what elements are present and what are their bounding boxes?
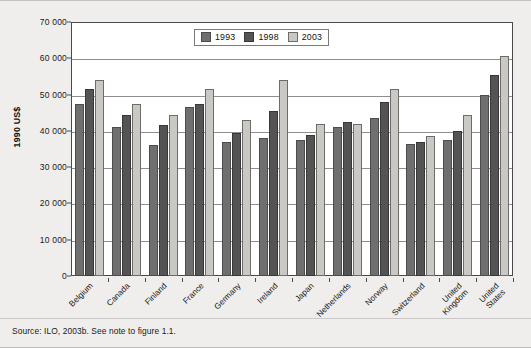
bar — [112, 127, 121, 276]
bar — [306, 135, 315, 277]
source-note: Source: ILO, 2003b. See note to figure 1… — [12, 326, 176, 336]
bars-layer — [71, 22, 513, 276]
legend-item[interactable]: 1993 — [201, 32, 235, 42]
bar — [453, 131, 462, 276]
bar — [232, 133, 241, 276]
bar — [169, 115, 178, 276]
figure-container: 1990 US$ 70 00060 00050 00040 00030 0002… — [0, 0, 531, 348]
legend-swatch-icon — [244, 32, 254, 42]
x-axis-tick-mark — [513, 278, 514, 282]
x-axis-tick-mark — [108, 278, 109, 282]
x-axis-tick-mark — [292, 278, 293, 282]
bar — [75, 104, 84, 276]
bar-group — [218, 22, 255, 276]
bar — [443, 140, 452, 276]
bar — [259, 138, 268, 276]
bar — [490, 75, 499, 276]
legend-label: 1993 — [215, 32, 235, 42]
bar — [380, 102, 389, 276]
bar-group — [255, 22, 292, 276]
bar — [426, 136, 435, 276]
y-axis-tick-mark — [67, 203, 71, 204]
y-axis-tick-label: 60 000 — [3, 53, 67, 63]
bar — [149, 145, 158, 276]
y-axis-tick-label: 20 000 — [3, 198, 67, 208]
x-axis-tick-mark — [329, 278, 330, 282]
bar — [85, 89, 94, 276]
bar — [416, 142, 425, 276]
y-axis-tick-label: 50 000 — [3, 90, 67, 100]
top-divider — [0, 0, 531, 1]
y-axis-tick-mark — [67, 130, 71, 131]
legend-label: 1998 — [258, 32, 278, 42]
y-axis-tick-mark — [67, 58, 71, 59]
bar — [463, 115, 472, 276]
x-axis-tick-mark — [218, 278, 219, 282]
note-divider — [0, 318, 531, 319]
bar — [316, 124, 325, 276]
y-axis-tick-mark — [67, 167, 71, 168]
bar — [353, 124, 362, 276]
x-axis-tick-mark — [145, 278, 146, 282]
bar — [95, 80, 104, 276]
x-axis-tick-mark — [476, 278, 477, 282]
bar-group — [108, 22, 145, 276]
chart-legend: 199319982003 — [194, 29, 329, 46]
bar — [480, 95, 489, 276]
x-axis-tick-mark — [182, 278, 183, 282]
bar-group — [439, 22, 476, 276]
y-axis-tick-mark — [67, 94, 71, 95]
bar-group — [182, 22, 219, 276]
bar — [222, 142, 231, 276]
bar — [370, 118, 379, 276]
x-axis-tick-mark — [439, 278, 440, 282]
bar — [269, 111, 278, 276]
bar — [333, 127, 342, 276]
bar — [195, 104, 204, 276]
bar — [159, 125, 168, 276]
bar — [279, 80, 288, 276]
bar — [205, 89, 214, 276]
bar — [132, 104, 141, 276]
bar-group — [403, 22, 440, 276]
y-axis-tick-label: 0 — [3, 271, 67, 281]
bar-group — [71, 22, 108, 276]
x-axis-tick-mark — [255, 278, 256, 282]
bar — [185, 107, 194, 276]
legend-item[interactable]: 1998 — [244, 32, 278, 42]
bar-group — [145, 22, 182, 276]
bar — [500, 56, 509, 276]
bar-group — [329, 22, 366, 276]
legend-swatch-icon — [201, 32, 211, 42]
x-axis-tick-mark — [366, 278, 367, 282]
y-axis-tick-label: 70 000 — [3, 17, 67, 27]
bar — [296, 140, 305, 276]
y-axis-tick-mark — [67, 276, 71, 277]
y-axis-tick-label: 40 000 — [3, 126, 67, 136]
legend-item[interactable]: 2003 — [288, 32, 322, 42]
bar-group — [476, 22, 513, 276]
bar — [390, 89, 399, 276]
bar-group — [292, 22, 329, 276]
y-axis-tick-mark — [67, 22, 71, 23]
legend-swatch-icon — [288, 32, 298, 42]
y-axis-tick-mark — [67, 239, 71, 240]
bar — [242, 120, 251, 276]
y-axis-tick-label: 30 000 — [3, 162, 67, 172]
bar-group — [366, 22, 403, 276]
y-axis-tick-label: 10 000 — [3, 235, 67, 245]
bar — [343, 122, 352, 276]
x-axis-tick-mark — [403, 278, 404, 282]
bar — [122, 115, 131, 276]
bar — [406, 144, 415, 276]
y-axis-labels: 70 00060 00050 00040 00030 00020 00010 0… — [0, 22, 67, 276]
legend-label: 2003 — [302, 32, 322, 42]
